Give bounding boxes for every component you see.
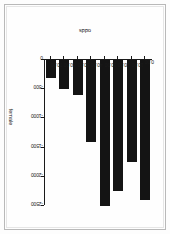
rotated-chart-wrapper: 0-500-1000-1500-2000-2500 0.0010.0020.00… (0, 0, 170, 234)
category-axis-line (44, 59, 45, 205)
category-tick (104, 56, 105, 59)
value-axis-title: female (8, 109, 14, 126)
category-tick-label: 20.00 (118, 62, 130, 68)
category-tick-label: 60.00 (64, 62, 76, 68)
category-axis-title: odds (79, 28, 91, 34)
bar-chart: 0-500-1000-1500-2000-2500 0.0010.0020.00… (10, 17, 160, 217)
value-tick-label: -1000 (31, 113, 43, 119)
bar (86, 60, 96, 142)
category-tick-label: 30.00 (105, 62, 117, 68)
category-tick-label: 40.00 (91, 62, 103, 68)
category-tick-label: 50.00 (78, 62, 90, 68)
screenshot-root: 0-500-1000-1500-2000-2500 0.0010.0020.00… (0, 0, 170, 234)
category-tick (77, 56, 78, 59)
value-tick-label: -2500 (31, 201, 43, 207)
category-tick-label: 10.00 (132, 62, 144, 68)
value-tick-label: 0 (40, 55, 43, 61)
value-tick-label: -2000 (31, 172, 43, 178)
category-tick (117, 56, 118, 59)
bar (127, 60, 137, 162)
bar (100, 60, 110, 206)
category-tick (50, 56, 51, 59)
category-tick (131, 56, 132, 59)
bar (140, 60, 150, 200)
value-tick-label: -1500 (31, 143, 43, 149)
plot-area: 0-500-1000-1500-2000-2500 0.0010.0020.00… (44, 59, 152, 205)
category-tick (63, 56, 64, 59)
category-tick-label: 0.00 (145, 59, 154, 65)
bar (113, 60, 123, 191)
category-tick (90, 56, 91, 59)
value-tick-label: -500 (34, 84, 43, 90)
category-tick-label: 70.00 (51, 62, 63, 68)
